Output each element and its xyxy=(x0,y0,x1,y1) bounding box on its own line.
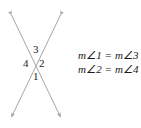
angle-label-2: 2 xyxy=(39,58,45,69)
equations-block: m∠1 = m∠3 m∠2 = m∠4 xyxy=(78,48,138,76)
equation-angle2-equals-angle4: m∠2 = m∠4 xyxy=(78,62,138,76)
angle-label-1: 1 xyxy=(33,71,39,82)
angle-label-3: 3 xyxy=(33,44,39,55)
equation-angle1-equals-angle3: m∠1 = m∠3 xyxy=(78,48,138,62)
angle-label-4: 4 xyxy=(23,58,29,69)
